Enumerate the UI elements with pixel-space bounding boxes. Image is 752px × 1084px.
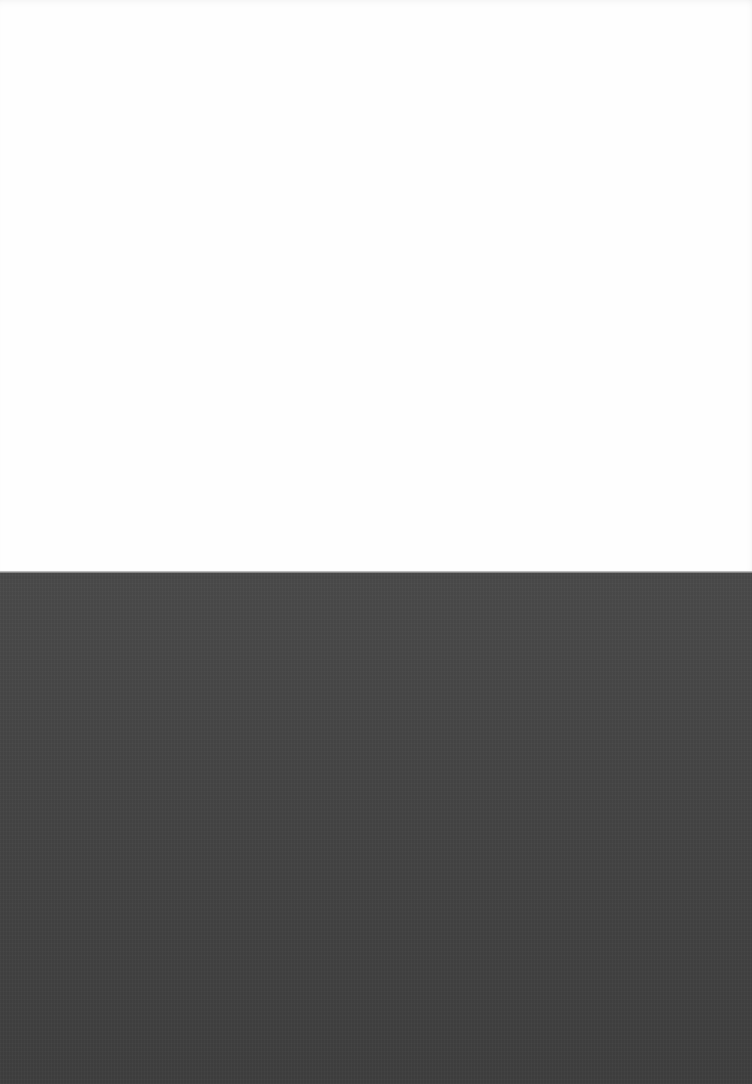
dark-surface	[0, 573, 752, 1084]
canvas	[0, 0, 752, 1084]
blank-paper-sheet	[0, 0, 752, 572]
